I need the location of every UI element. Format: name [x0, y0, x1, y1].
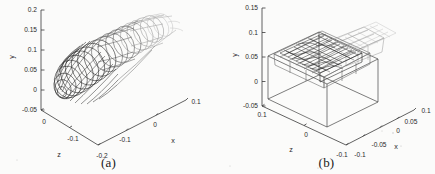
x-axis-label: x — [394, 142, 398, 151]
x-tick-label: 0.1 — [191, 98, 200, 105]
x-tick-label: -0.1 — [119, 136, 131, 143]
panel-b-plot: 0.15 0.1 0.05 0 -0.05 y 0.1 0 -0.1 z — [218, 0, 435, 174]
panel-a-caption: (a) — [0, 155, 217, 171]
y-tick-label: 0.1 — [28, 46, 37, 53]
y-tick-label: 0 — [33, 86, 37, 93]
z-tick-label: 0 — [42, 118, 46, 125]
z-axis-label: z — [289, 145, 293, 154]
x-tick-label: 0.05 — [405, 118, 418, 125]
y-tick-label: 0.05 — [24, 66, 37, 73]
x-tick-label: 0.1 — [421, 107, 430, 114]
y-tick-label: 0.05 — [245, 53, 258, 60]
y-axis-ticks-a — [41, 10, 45, 110]
mesh-tube-object — [51, 10, 183, 104]
figure-container: 0.2 0.15 0.1 0.05 0 -0.05 y 0 -0.1 -0.2 … — [0, 0, 435, 174]
y-tick-label: 0.15 — [245, 4, 258, 11]
y-tick-label: 0.1 — [249, 29, 258, 36]
z-tick-label: 0.1 — [257, 111, 266, 118]
x-tick-label: -0.05 — [371, 141, 386, 148]
y-tick-label: -0.05 — [22, 106, 37, 113]
y-tick-label: 0.2 — [28, 6, 37, 13]
y-tick-label: 0 — [254, 78, 258, 85]
x-tick-label: 0 — [153, 121, 157, 128]
panel-b-caption: (b) — [218, 155, 435, 171]
panel-a: 0.2 0.15 0.1 0.05 0 -0.05 y 0 -0.1 -0.2 … — [0, 0, 217, 174]
z-tick-label: -0.1 — [67, 135, 79, 142]
y-tick-label: -0.05 — [243, 102, 258, 109]
x-tick-label: 0 — [396, 127, 400, 134]
y-tick-label: 0.15 — [24, 26, 37, 33]
y-axis-label: y — [230, 53, 239, 57]
z-tick-label: 0 — [304, 131, 308, 138]
panel-a-plot: 0.2 0.15 0.1 0.05 0 -0.05 y 0 -0.1 -0.2 … — [0, 0, 217, 174]
y-axis-label: y — [7, 55, 16, 59]
z-axis-ticks-b — [262, 104, 349, 145]
y-axis-ticks-b — [262, 8, 266, 106]
panel-b: 0.15 0.1 0.05 0 -0.05 y 0.1 0 -0.1 z — [218, 0, 435, 174]
x-axis-label: x — [171, 136, 175, 145]
